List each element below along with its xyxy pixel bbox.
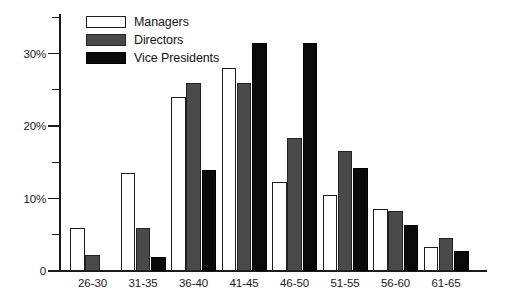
legend-item-vps: Vice Presidents xyxy=(86,50,219,67)
y-tick-major xyxy=(48,125,60,126)
bar-managers-26-30 xyxy=(70,228,85,272)
bar-directors-36-40 xyxy=(186,83,201,272)
y-tick-major xyxy=(48,198,60,199)
bar-vps-46-50 xyxy=(303,43,318,271)
y-tick-label: 10% xyxy=(2,193,46,205)
y-axis-labels: 010%20%30% xyxy=(0,0,46,305)
y-tick-major xyxy=(48,270,60,271)
legend-swatch-directors xyxy=(86,34,126,46)
bar-directors-51-55 xyxy=(338,151,353,271)
y-tick-major xyxy=(48,53,60,54)
bar-vps-36-40 xyxy=(202,170,217,272)
bar-managers-61-65 xyxy=(424,247,439,271)
bar-vps-41-45 xyxy=(252,43,267,271)
y-tick-label: 30% xyxy=(2,48,46,60)
bar-chart: 010%20%30% 26-3031-3536-4041-4546-5051-5… xyxy=(0,0,511,305)
legend-swatch-managers xyxy=(86,16,126,28)
y-tick-minor xyxy=(52,17,60,18)
bar-managers-31-35 xyxy=(121,173,136,271)
y-tick-minor xyxy=(52,162,60,163)
chart-legend: ManagersDirectorsVice Presidents xyxy=(86,14,219,68)
bar-directors-61-65 xyxy=(439,238,454,271)
bar-vps-61-65 xyxy=(454,251,469,271)
y-tick-minor xyxy=(52,89,60,90)
bar-vps-51-55 xyxy=(353,168,368,271)
legend-label-directors: Directors xyxy=(134,33,183,47)
x-tick-label-61-65: 61-65 xyxy=(416,277,476,289)
bar-directors-26-30 xyxy=(85,255,100,271)
y-tick-label: 20% xyxy=(2,120,46,132)
bar-managers-36-40 xyxy=(171,97,186,271)
bar-directors-46-50 xyxy=(287,138,302,271)
legend-label-vps: Vice Presidents xyxy=(134,51,219,65)
bar-vps-56-60 xyxy=(404,225,419,271)
bar-directors-31-35 xyxy=(136,228,151,272)
bar-managers-41-45 xyxy=(222,68,237,271)
bar-vps-31-35 xyxy=(151,257,166,272)
legend-item-directors: Directors xyxy=(86,32,219,49)
legend-swatch-vps xyxy=(86,52,126,64)
y-tick-label: 0 xyxy=(2,265,46,277)
legend-item-managers: Managers xyxy=(86,14,219,31)
bar-directors-41-45 xyxy=(237,83,252,272)
y-tick-minor xyxy=(52,234,60,235)
bar-managers-56-60 xyxy=(373,209,388,271)
legend-label-managers: Managers xyxy=(134,15,189,29)
bar-managers-51-55 xyxy=(323,195,338,271)
bar-managers-46-50 xyxy=(272,182,287,271)
bar-directors-56-60 xyxy=(388,211,403,271)
